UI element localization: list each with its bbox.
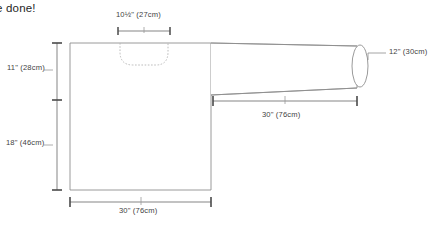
body-panel-group xyxy=(70,43,211,190)
sleeve-group xyxy=(211,43,357,95)
schematic-svg xyxy=(0,0,436,227)
schematic-diagram: e done! 10½" (27cm) 11" (28cm) 18" (46cm… xyxy=(0,0,436,227)
cuff-ellipse-icon xyxy=(352,45,368,87)
dimension-left-vertical xyxy=(44,43,62,190)
label-yoke-depth: 11" (28cm) xyxy=(7,64,45,72)
sleeve-panel xyxy=(211,43,357,95)
label-sleeve-length: 30" (76cm) xyxy=(262,111,300,119)
page-header-text: e done! xyxy=(0,3,36,15)
body-panel xyxy=(70,43,211,190)
label-cuff-width: 12" (30cm) xyxy=(389,48,427,56)
cuff-group xyxy=(352,45,386,87)
label-hem-width: 30" (76cm) xyxy=(119,207,157,215)
dimension-sleeve-length xyxy=(213,96,357,106)
label-neck-width: 10½" (27cm) xyxy=(116,11,161,19)
dimension-neck-width xyxy=(118,27,170,35)
label-lower-body: 18" (46cm) xyxy=(6,139,44,147)
